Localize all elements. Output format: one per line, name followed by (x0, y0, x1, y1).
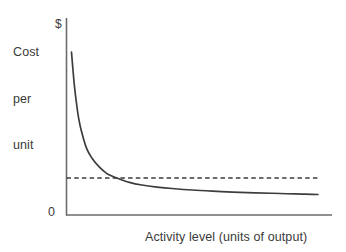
plot-area (0, 0, 346, 252)
cost-per-unit-curve (72, 52, 319, 194)
cost-per-unit-chart: Cost per unit $ 0 Activity level (units … (0, 0, 346, 252)
